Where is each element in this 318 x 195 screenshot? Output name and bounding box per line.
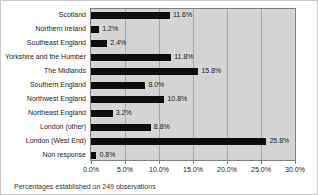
category-label: Scotland xyxy=(1,10,86,19)
bar-chart-figure: Percentages established on 249 observati… xyxy=(0,0,318,195)
value-label: 11.6% xyxy=(173,10,192,19)
bar xyxy=(91,152,96,159)
x-tick-mark xyxy=(227,161,228,164)
x-tick-label: 25.0% xyxy=(251,166,271,173)
bar xyxy=(91,138,266,145)
x-tick-mark xyxy=(261,161,262,164)
plot-area xyxy=(90,8,296,161)
category-label: Non response xyxy=(1,150,86,159)
bar xyxy=(91,96,164,103)
x-tick-mark xyxy=(159,161,160,164)
value-label: 15.8% xyxy=(201,66,221,75)
x-tick-label: 10.0% xyxy=(149,166,169,173)
category-label: Northern Ireland xyxy=(1,24,86,33)
x-tick-label: 15.0% xyxy=(183,166,203,173)
value-label: 0.8% xyxy=(99,150,115,159)
value-label: 2.4% xyxy=(110,38,126,47)
x-tick-label: 0.0% xyxy=(83,166,99,173)
bar xyxy=(91,12,170,19)
bar xyxy=(91,110,113,117)
x-tick-mark xyxy=(125,161,126,164)
category-label: The Midlands xyxy=(1,66,86,75)
category-label: Southeast England xyxy=(1,38,86,47)
value-label: 10.8% xyxy=(167,94,187,103)
value-label: 3.2% xyxy=(116,108,132,117)
value-label: 8.0% xyxy=(148,80,164,89)
x-tick-mark xyxy=(193,161,194,164)
x-tick-label: 5.0% xyxy=(117,166,133,173)
x-tick-mark xyxy=(295,161,296,164)
value-label: 25.8% xyxy=(269,136,289,145)
category-label: Southern England xyxy=(1,80,86,89)
chart-caption: Percentages established on 249 observati… xyxy=(14,183,156,190)
x-tick-label: 20.0% xyxy=(217,166,237,173)
value-label: 11.8% xyxy=(174,52,193,61)
x-tick-mark xyxy=(91,161,92,164)
value-label: 8.8% xyxy=(154,122,170,131)
category-label: Northwest England xyxy=(1,94,86,103)
category-label: London (West End) xyxy=(1,136,86,145)
bar xyxy=(91,26,99,33)
category-label: London (other) xyxy=(1,122,86,131)
category-label: Northeast England xyxy=(1,108,86,117)
bar xyxy=(91,68,198,75)
value-label: 1.2% xyxy=(102,24,118,33)
x-tick-label: 30.0% xyxy=(285,166,305,173)
bar xyxy=(91,124,151,131)
category-label: Yorkshire and the Humber xyxy=(1,52,86,61)
bar xyxy=(91,82,145,89)
bar xyxy=(91,54,171,61)
bar xyxy=(91,40,107,47)
